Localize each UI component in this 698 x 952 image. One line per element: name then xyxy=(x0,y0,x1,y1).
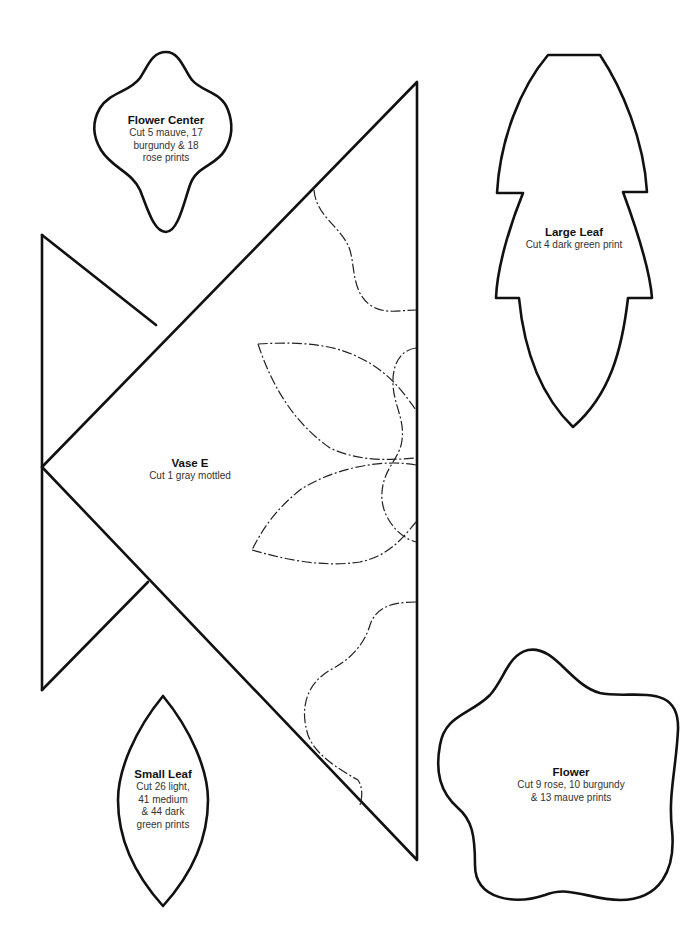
vase-title: Vase E xyxy=(130,456,250,470)
small-leaf-label: Small Leaf Cut 26 light, 41 medium & 44 … xyxy=(113,767,213,831)
flower-line-1: Cut 9 rose, 10 burgundy xyxy=(496,779,646,792)
large-leaf-title: Large Leaf xyxy=(514,225,634,239)
flower-title: Flower xyxy=(496,765,646,779)
pattern-sheet xyxy=(0,0,698,952)
small-leaf-line-1: Cut 26 light, xyxy=(113,781,213,794)
vase-line-1: Cut 1 gray mottled xyxy=(130,470,250,483)
small-leaf-line-2: 41 medium xyxy=(113,794,213,807)
flower-label: Flower Cut 9 rose, 10 burgundy & 13 mauv… xyxy=(496,765,646,804)
small-leaf-title: Small Leaf xyxy=(113,767,213,781)
flower-center-title: Flower Center xyxy=(106,113,226,127)
flower-center-line-2: burgundy & 18 xyxy=(106,140,226,153)
small-leaf-line-3: & 44 dark xyxy=(113,806,213,819)
flower-center-line-1: Cut 5 mauve, 17 xyxy=(106,127,226,140)
flower-line-2: & 13 mauve prints xyxy=(496,792,646,805)
vase-label: Vase E Cut 1 gray mottled xyxy=(130,456,250,483)
flower-center-line-3: rose prints xyxy=(106,152,226,165)
large-leaf-label: Large Leaf Cut 4 dark green print xyxy=(514,225,634,252)
large-leaf-line-1: Cut 4 dark green print xyxy=(514,239,634,252)
small-leaf-line-4: green prints xyxy=(113,819,213,832)
flower-center-label: Flower Center Cut 5 mauve, 17 burgundy &… xyxy=(106,113,226,165)
